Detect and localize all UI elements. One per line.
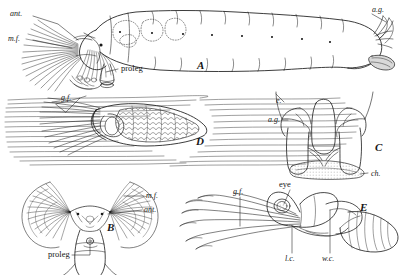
figure-c-artwork: [276, 92, 373, 179]
label-a-ag: a.g.: [372, 6, 384, 14]
label-a-proleg: proleg: [121, 64, 143, 73]
label-b-proleg: proleg: [48, 250, 70, 259]
label-c-ag: a.g.: [268, 116, 280, 124]
label-b-mf: m.f.: [146, 192, 158, 200]
label-e-lc: l.c.: [285, 255, 295, 263]
label-figure-d: D: [196, 136, 204, 147]
label-e-eye: eye: [279, 180, 291, 189]
label-b-ant: ant.: [144, 206, 156, 214]
label-figure-c: C: [375, 142, 382, 153]
label-a-ant: ant.: [10, 10, 22, 18]
label-figure-e: E: [360, 202, 367, 213]
label-e-wc: w.c.: [322, 255, 334, 263]
label-figure-b: B: [107, 222, 114, 233]
plate-artwork: [0, 0, 409, 275]
label-d-gf: g.f.: [61, 94, 71, 102]
illustration-plate: ant. m.f. proleg A a.g. g.f. D e. a.g. C…: [0, 0, 409, 275]
label-c-ch: ch.: [371, 170, 381, 178]
label-c-e: e.: [276, 97, 282, 105]
label-a-mf: m.f.: [8, 35, 20, 43]
label-e-gf: g.f.: [233, 188, 243, 196]
label-figure-a: A: [197, 60, 204, 71]
figure-a-artwork: [22, 11, 395, 92]
figure-d-artwork: [5, 96, 358, 166]
